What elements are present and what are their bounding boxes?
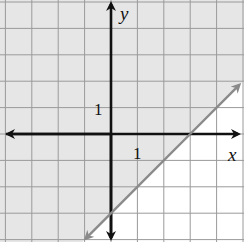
coordinate-graph: y x 1 1 [0, 0, 244, 242]
y-axis-label: y [118, 3, 129, 24]
x-axis-label: x [227, 144, 237, 165]
graph-canvas: y x 1 1 [0, 0, 244, 242]
y-tick-label: 1 [94, 100, 103, 119]
shaded-solution-region [0, 0, 244, 242]
x-tick-label: 1 [133, 144, 142, 163]
